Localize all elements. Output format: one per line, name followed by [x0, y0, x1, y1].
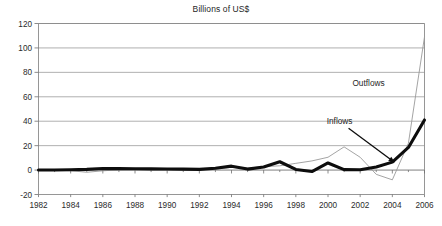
x-tick-label-1992: 1992 — [190, 201, 209, 210]
x-tick-label-1990: 1990 — [158, 201, 177, 210]
annotation-arrow-line-inflows — [349, 128, 392, 160]
x-tick-label-1996: 1996 — [255, 201, 274, 210]
data-series-group — [39, 37, 425, 180]
chart-plot-area: 120100806040200-20 198219841986198819901… — [0, 0, 442, 226]
series-annotations: OutflowsInflows — [327, 78, 395, 163]
x-axis-tickmarks — [39, 170, 425, 197]
y-tick-label-40: 40 — [23, 117, 33, 126]
series-line-outflows — [39, 37, 425, 180]
x-tick-label-2000: 2000 — [319, 201, 338, 210]
x-tick-label-2004: 2004 — [383, 201, 402, 210]
y-tick-label-120: 120 — [18, 20, 32, 29]
gridlines — [39, 24, 425, 171]
x-tick-label-1998: 1998 — [287, 201, 306, 210]
y-tick-label-100: 100 — [18, 44, 32, 53]
y-tick-label-20: 20 — [23, 142, 33, 151]
x-tick-label-2006: 2006 — [415, 201, 434, 210]
x-tick-label-1984: 1984 — [62, 201, 81, 210]
y-tick-label--20: -20 — [20, 191, 32, 200]
x-tick-label-1988: 1988 — [126, 201, 145, 210]
y-tick-label-80: 80 — [23, 68, 33, 77]
x-tick-label-1986: 1986 — [94, 201, 113, 210]
x-tick-label-2002: 2002 — [351, 201, 370, 210]
y-tick-label-0: 0 — [27, 166, 32, 175]
annotation-label-outflows: Outflows — [352, 78, 384, 88]
x-tick-label-1994: 1994 — [222, 201, 241, 210]
y-tick-label-60: 60 — [23, 93, 33, 102]
annotation-label-inflows: Inflows — [327, 116, 353, 126]
chart-container: Billions of US$ 120100806040200-20 19821… — [0, 0, 442, 226]
x-tick-label-1982: 1982 — [29, 201, 48, 210]
y-axis-tick-labels: 120100806040200-20 — [18, 20, 38, 200]
x-axis-tick-labels: 1982198419861988199019921994199619982000… — [29, 201, 434, 210]
